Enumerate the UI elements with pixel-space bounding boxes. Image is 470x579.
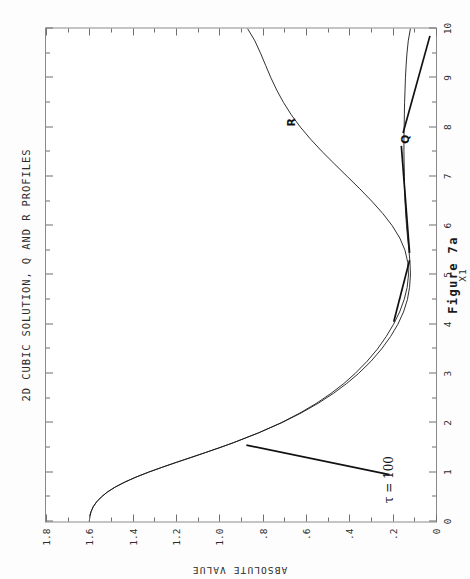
curve-r [89, 28, 408, 521]
y-tick-right-1.7 [68, 28, 69, 32]
y-tick-right-0.1 [414, 28, 415, 32]
x-tick-top-6.5 [46, 200, 50, 201]
q-leader-lower [394, 260, 410, 322]
annotation-q: Q [398, 134, 411, 143]
figure-page: 2D CUBIC SOLUTION, Q AND R PROFILES 0123… [0, 0, 470, 579]
plot-canvas [46, 28, 436, 521]
x-tick-5 [429, 274, 436, 275]
y-tick-0.4 [349, 514, 350, 521]
x-tick-6.5 [432, 200, 436, 201]
y-tick-label-4: .8 [257, 528, 268, 564]
y-tick-right-1.8 [46, 28, 47, 35]
x-tick-0.5 [432, 495, 436, 496]
y-tick-label-0: 0 [431, 528, 442, 564]
x-tick-top-1 [46, 471, 53, 472]
x-tick-top-9 [46, 76, 53, 77]
x-tick-top-4 [46, 323, 53, 324]
y-tick-right-1.3 [154, 28, 155, 32]
y-tick-1.2 [176, 514, 177, 521]
x-tick-top-8.5 [46, 101, 50, 102]
y-tick-right-0.8 [263, 28, 264, 35]
y-tick-right-1.1 [198, 28, 199, 32]
y-tick-1.4 [133, 514, 134, 521]
x-tick-top-10 [46, 27, 53, 28]
x-tick-0 [429, 520, 436, 521]
y-tick-right-0.2 [393, 28, 394, 35]
x-tick-2 [429, 421, 436, 422]
y-tick-0.6 [306, 514, 307, 521]
y-tick-1.8 [46, 514, 47, 521]
plot-frame [45, 27, 437, 522]
x-tick-top-5 [46, 274, 53, 275]
x-tick-top-8 [46, 126, 53, 127]
y-tick-label-9: 1.8 [41, 528, 52, 564]
figure-body: 2D CUBIC SOLUTION, Q AND R PROFILES 0123… [0, 0, 470, 579]
y-tick-right-1.4 [133, 28, 134, 35]
x-tick-3 [429, 372, 436, 373]
y-tick-0.3 [371, 517, 372, 521]
x-tick-9.5 [432, 52, 436, 53]
y-tick-1.6 [89, 514, 90, 521]
x-tick-1 [429, 471, 436, 472]
y-axis-label: ABSOLUTE VALUE [170, 565, 310, 576]
y-tick-right-0.7 [284, 28, 285, 32]
q-leader-upper [401, 145, 409, 252]
x-tick-top-9.5 [46, 52, 50, 53]
x-tick-top-0.5 [46, 495, 50, 496]
figure-caption: Figure 7a [446, 27, 460, 522]
y-tick-0.7 [284, 517, 285, 521]
y-tick-0.9 [241, 517, 242, 521]
y-tick-0.1 [414, 517, 415, 521]
x-tick-7 [429, 175, 436, 176]
x-tick-top-0 [46, 520, 53, 521]
y-tick-1.5 [111, 517, 112, 521]
x-tick-4.5 [432, 298, 436, 299]
x-tick-top-7 [46, 175, 53, 176]
y-tick-right-0.0 [436, 28, 437, 35]
x-tick-top-3.5 [46, 347, 50, 348]
annotation-r: R [284, 117, 297, 125]
x-tick-top-7.5 [46, 150, 50, 151]
y-tick-1.0 [219, 514, 220, 521]
x-tick-top-2.5 [46, 397, 50, 398]
y-tick-1.3 [154, 517, 155, 521]
x-tick-top-6 [46, 224, 53, 225]
x-tick-4 [429, 323, 436, 324]
y-tick-0.2 [393, 514, 394, 521]
y-tick-label-6: 1.2 [171, 528, 182, 564]
y-tick-right-1.6 [89, 28, 90, 35]
y-tick-1.1 [198, 517, 199, 521]
y-tick-right-0.5 [328, 28, 329, 32]
y-tick-label-3: .6 [301, 528, 312, 564]
y-tick-right-1.5 [111, 28, 112, 32]
y-tick-right-1.2 [176, 28, 177, 35]
y-tick-label-2: .4 [344, 528, 355, 564]
y-tick-right-0.4 [349, 28, 350, 35]
x-tick-8.5 [432, 101, 436, 102]
annotation-tau: τ = 100 [382, 455, 396, 502]
chart-title: 2D CUBIC SOLUTION, Q AND R PROFILES [20, 27, 32, 522]
x-tick-5.5 [432, 249, 436, 250]
x-tick-1.5 [432, 446, 436, 447]
x-tick-top-1.5 [46, 446, 50, 447]
x-tick-top-3 [46, 372, 53, 373]
y-tick-label-7: 1.4 [127, 528, 138, 564]
y-tick-right-0.6 [306, 28, 307, 35]
x-tick-2.5 [432, 397, 436, 398]
y-tick-right-0.3 [371, 28, 372, 32]
y-tick-0.8 [263, 514, 264, 521]
x-tick-7.5 [432, 150, 436, 151]
curve-q [89, 28, 410, 521]
x-tick-6 [429, 224, 436, 225]
rotated-figure-stage: 2D CUBIC SOLUTION, Q AND R PROFILES 0123… [0, 0, 470, 579]
x-tick-top-5.5 [46, 249, 50, 250]
x-tick-8 [429, 126, 436, 127]
y-tick-label-5: 1.0 [214, 528, 225, 564]
y-tick-1.7 [68, 517, 69, 521]
x-tick-top-4.5 [46, 298, 50, 299]
x-tick-3.5 [432, 347, 436, 348]
x-tick-10 [429, 27, 436, 28]
tau-leader [246, 445, 389, 475]
y-tick-0.0 [436, 514, 437, 521]
y-tick-right-0.9 [241, 28, 242, 32]
